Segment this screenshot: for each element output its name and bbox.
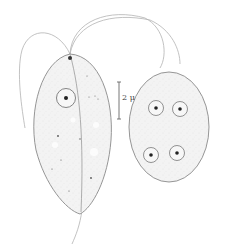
protozoa-illustration — [0, 0, 228, 250]
cyst-nucleus — [170, 146, 185, 161]
cyst-nucleus — [149, 101, 164, 116]
scale-bar — [117, 82, 121, 119]
trophozoite-cell — [34, 54, 112, 214]
trophozoite-nucleus — [57, 89, 76, 108]
cyst-nucleus — [144, 148, 159, 163]
scale-bar-label: 2 μ — [122, 94, 135, 102]
cyst-cell — [129, 72, 209, 182]
cyst-nucleus — [173, 102, 188, 117]
